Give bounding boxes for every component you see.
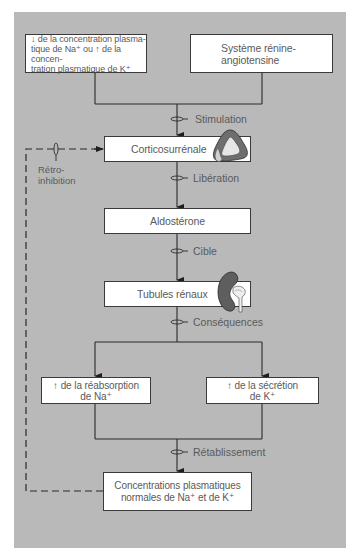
- node-renin-angiotensin-line1: Système rénine-: [221, 42, 296, 54]
- node-low-na-high-k-line2: tique de Na⁺ ou ↑ de la concen-: [31, 44, 146, 64]
- edge-label-liberation: Libération: [193, 172, 239, 184]
- node-k-secretion-line1: ↑ de la sécrétion: [227, 380, 298, 391]
- node-renal-tubules-label: Tubules rénaux: [137, 288, 208, 300]
- node-renin-angiotensin: Système rénine- angiotensine: [190, 34, 333, 73]
- node-normal-concentrations-line1: Concentrations plasmatiques: [114, 480, 240, 492]
- edge-label-retablissement: Rétablissement: [193, 446, 265, 458]
- node-normal-concentrations: Concentrations plasmatiques normales de …: [103, 472, 252, 511]
- edge-label-cible: Cible: [193, 245, 217, 257]
- node-low-na-high-k-line1: ↓ de la concentration plasma-: [31, 34, 146, 44]
- edge-label-stimulation: Stimulation: [195, 113, 247, 125]
- node-low-na-high-k-line3: tration plasmatique de K⁺: [31, 64, 146, 74]
- kidney-icon: [215, 270, 249, 314]
- node-na-reabsorption: ↑ de la réabsorption de Na⁺: [41, 377, 151, 404]
- edge-label-feedback-line1: Rétro-: [38, 164, 98, 175]
- node-k-secretion: ↑ de la sécrétion de K⁺: [206, 377, 319, 404]
- node-aldosterone: Aldostérone: [104, 208, 251, 234]
- node-k-secretion-line2: de K⁺: [227, 391, 298, 402]
- node-normal-concentrations-line2: normales de Na⁺ et de K⁺: [114, 492, 240, 504]
- edge-label-consequences: Conséquences: [193, 316, 263, 328]
- node-adrenal-cortex-label: Corticosurrénale: [131, 143, 206, 155]
- adrenal-gland-icon: [210, 128, 250, 164]
- node-na-reabsorption-line1: ↑ de la réabsorption: [53, 380, 139, 391]
- node-renin-angiotensin-line2: angiotensine: [221, 54, 296, 66]
- node-aldosterone-label: Aldostérone: [150, 215, 205, 227]
- edge-label-feedback: Rétro- inhibition: [38, 164, 98, 186]
- node-low-na-high-k: ↓ de la concentration plasma- tique de N…: [25, 34, 147, 73]
- node-na-reabsorption-line2: de Na⁺: [53, 391, 139, 402]
- edge-label-feedback-line2: inhibition: [38, 175, 98, 186]
